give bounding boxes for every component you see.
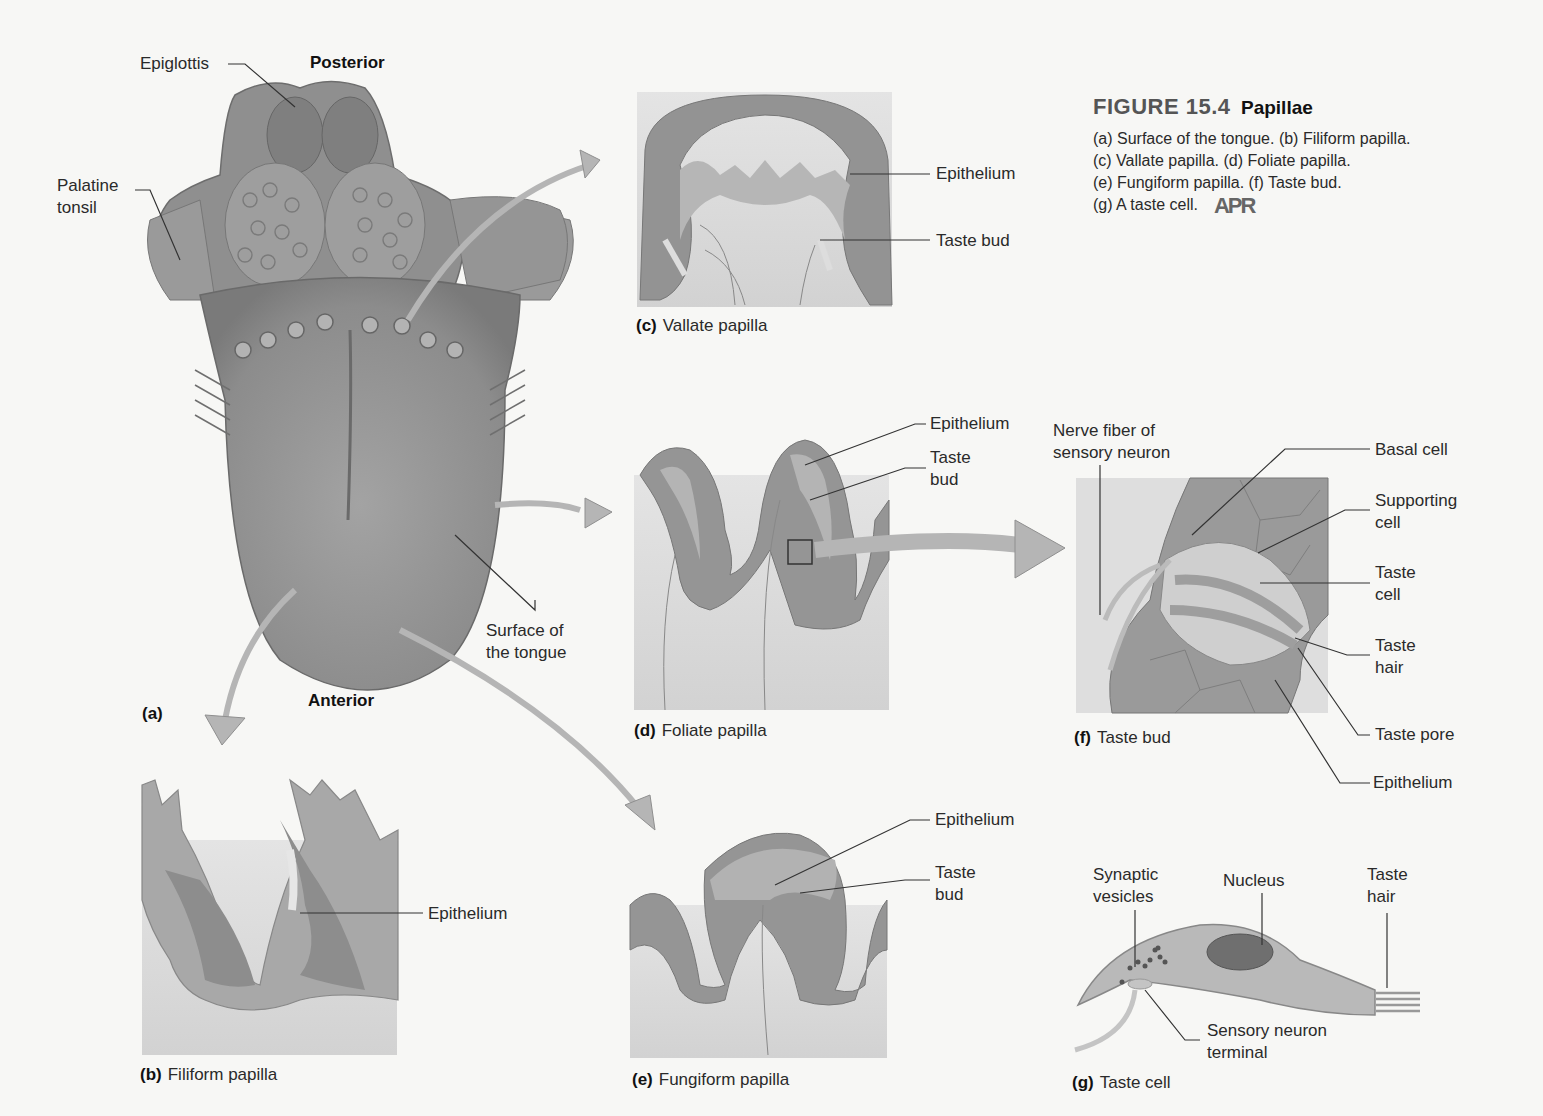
anterior-label: Anterior bbox=[308, 690, 374, 712]
taste-cell-caption: (g)Taste cell bbox=[1072, 1073, 1171, 1093]
description-line: (e) Fungiform papilla. (f) Taste bud. bbox=[1093, 172, 1410, 194]
figure-name: Papillae bbox=[1241, 97, 1313, 118]
foliate-illustration bbox=[634, 440, 889, 710]
arrow-to-taste-bud bbox=[815, 541, 1020, 550]
fungiform-caption: (e)Fungiform papilla bbox=[632, 1070, 789, 1090]
vallate-caption: (c)Vallate papilla bbox=[636, 316, 767, 336]
foliate-caption: (d)Foliate papilla bbox=[634, 721, 767, 741]
posterior-label: Posterior bbox=[310, 52, 385, 74]
description-line: (g) A taste cell.APR bbox=[1093, 194, 1410, 217]
nucleus-label: Nucleus bbox=[1223, 870, 1284, 892]
vallate-taste-bud-label: Taste bud bbox=[936, 230, 1010, 252]
foliate-epithelium-label: Epithelium bbox=[930, 413, 1009, 435]
figure-title: FIGURE 15.4 Papillae bbox=[1093, 94, 1313, 120]
filiform-illustration bbox=[142, 780, 398, 1055]
description-line: (a) Surface of the tongue. (b) Filiform … bbox=[1093, 128, 1410, 150]
nerve-fiber-label: Nerve fiber of sensory neuron bbox=[1053, 420, 1170, 464]
taste-hair-label: Taste hair bbox=[1375, 635, 1416, 679]
supporting-cell-label: Supporting cell bbox=[1375, 490, 1457, 534]
fungiform-epithelium-label: Epithelium bbox=[935, 809, 1014, 831]
tongue-illustration bbox=[148, 82, 574, 691]
foliate-taste-bud-label: Taste bud bbox=[930, 447, 971, 491]
basal-cell-label: Basal cell bbox=[1375, 439, 1448, 461]
panel-a-letter: (a) bbox=[142, 703, 163, 725]
taste-bud-caption: (f)Taste bud bbox=[1074, 728, 1171, 748]
taste-cell-label: Taste cell bbox=[1375, 562, 1416, 606]
filiform-caption: (b)Filiform papilla bbox=[140, 1065, 277, 1085]
taste-pore-label: Taste pore bbox=[1375, 724, 1454, 746]
epiglottis-label: Epiglottis bbox=[140, 53, 209, 75]
synaptic-vesicles-label: Synaptic vesicles bbox=[1093, 864, 1158, 908]
taste-bud-epithelium-label: Epithelium bbox=[1373, 772, 1452, 794]
fungiform-taste-bud-label: Taste bud bbox=[935, 862, 976, 906]
description-line: (c) Vallate papilla. (d) Foliate papilla… bbox=[1093, 150, 1410, 172]
palatine-tonsil-label: Palatine tonsil bbox=[57, 175, 118, 219]
figure-number: FIGURE 15.4 bbox=[1093, 94, 1231, 119]
surface-of-tongue-label: Surface of the tongue bbox=[486, 620, 566, 664]
vallate-epithelium-label: Epithelium bbox=[936, 163, 1015, 185]
arrow-to-foliate bbox=[495, 503, 580, 510]
taste-bud-illustration bbox=[1076, 478, 1328, 713]
vallate-illustration bbox=[637, 92, 892, 307]
filiform-epithelium-label: Epithelium bbox=[428, 903, 507, 925]
figure-description: (a) Surface of the tongue. (b) Filiform … bbox=[1093, 128, 1410, 217]
fungiform-illustration bbox=[630, 833, 887, 1058]
cell-taste-hair-label: Taste hair bbox=[1367, 864, 1408, 908]
apr-badge-icon: APR bbox=[1214, 195, 1254, 217]
sensory-neuron-terminal-label: Sensory neuron terminal bbox=[1207, 1020, 1327, 1064]
